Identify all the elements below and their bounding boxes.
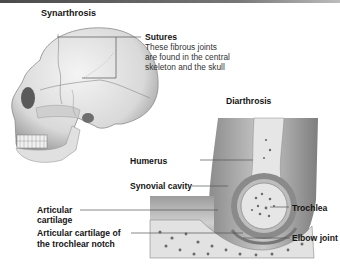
sutures-description-line-2: are found in the central [145, 52, 230, 62]
elbow-joint-label: Elbow joint [292, 233, 338, 243]
humerus-label: Humerus [130, 156, 167, 166]
sutures-description-line-3: skeleton and the skull [145, 62, 225, 72]
articular-notch-label-line-1: Articular cartilage of [37, 228, 121, 238]
articular-cartilage-label-line-2: cartilage [37, 215, 72, 225]
diarthrosis-title: Diarthrosis [226, 96, 271, 106]
articular-cartilage-label-line-1: Articular [37, 205, 72, 215]
synovial-cavity-label: Synovial cavity [130, 181, 192, 191]
sutures-label: Sutures [145, 32, 177, 42]
sutures-description-line-1: These fibrous joints [145, 42, 217, 52]
trochlea-label: Trochlea [292, 203, 327, 213]
skull-illustration [12, 28, 158, 163]
synarthrosis-title: Synarthrosis [41, 8, 96, 18]
articular-notch-label-line-2: the trochlear notch [37, 239, 115, 249]
